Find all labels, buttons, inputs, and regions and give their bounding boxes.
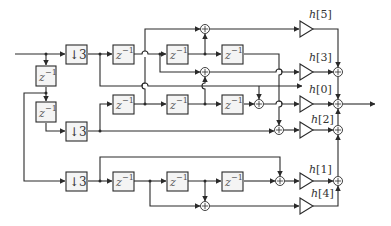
svg-text:−1: −1 [122,46,134,55]
svg-text:z: z [224,99,231,112]
delay-top-3: z −1 [222,45,243,64]
svg-text:z: z [38,71,45,84]
svg-text:−1: −1 [231,173,243,182]
downsampler-middle: ↓3 [66,122,87,141]
svg-text:h[2]: h[2] [311,113,334,126]
svg-text:−1: −1 [45,104,57,113]
svg-text:−1: −1 [231,46,243,55]
svg-text:z: z [115,176,122,189]
svg-text:↓3: ↓3 [69,175,87,189]
svg-text:−1: −1 [176,46,188,55]
polyphase-filter-diagram: ↓3 ↓3 ↓3 z −1 z −1 z −1 z −1 z −1 z −1 [0,0,391,226]
svg-text:−1: −1 [176,173,188,182]
gain-h3: h[3] [300,51,332,80]
delay-middle-1: z −1 [113,95,134,114]
gain-h0: h[0] [300,83,332,112]
svg-text:↓3: ↓3 [69,125,87,139]
svg-text:z: z [224,49,231,62]
adder-icon [201,202,210,211]
svg-text:−1: −1 [176,96,188,105]
svg-text:−1: −1 [45,68,57,77]
delay-bottom-1: z −1 [113,172,134,191]
svg-text:−1: −1 [231,96,243,105]
svg-text:z: z [115,99,122,112]
svg-text:−1: −1 [122,173,134,182]
gain-h5: h[5] [300,8,332,37]
adder-icon [334,68,343,77]
svg-text:h[5]: h[5] [309,8,332,21]
delay-bottom-2: z −1 [167,172,188,191]
svg-text:h[1]: h[1] [309,163,332,176]
svg-text:h[0]: h[0] [309,83,332,96]
delay-top-2: z −1 [167,45,188,64]
adder-icon [334,100,343,109]
svg-text:↓3: ↓3 [69,48,87,62]
adder-icon [201,68,210,77]
delay-input-2: z −1 [36,102,57,122]
svg-text:z: z [224,176,231,189]
adder-icon [201,25,210,34]
svg-text:h[3]: h[3] [309,51,332,64]
delay-bottom-3: z −1 [222,172,243,191]
adder-icon [334,126,343,135]
svg-text:z: z [169,99,176,112]
adder-icon [334,177,343,186]
adder-icon [276,177,285,186]
delay-top-1: z −1 [113,45,134,64]
gain-h2: h[2] [300,113,334,138]
delay-middle-2: z −1 [167,95,188,114]
delay-middle-3: z −1 [222,95,243,114]
adder-icon [275,126,284,135]
svg-text:z: z [169,176,176,189]
gain-h1: h[1] [300,163,332,189]
svg-text:z: z [169,49,176,62]
downsampler-top: ↓3 [66,45,87,64]
adder-icon [255,100,264,109]
svg-text:h[4]: h[4] [311,187,334,200]
svg-text:z: z [38,107,45,120]
gain-h4: h[4] [300,187,334,214]
svg-text:z: z [115,49,122,62]
downsampler-bottom: ↓3 [66,172,87,191]
delay-input-1: z −1 [36,66,57,86]
svg-text:−1: −1 [122,96,134,105]
